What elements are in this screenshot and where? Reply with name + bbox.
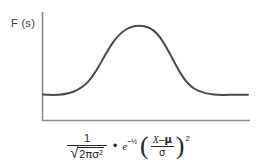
paren-close: ) [176,133,185,159]
y-axis-label: F (s) [11,17,35,30]
fraction-denominator: √ 2πσ2 [67,146,107,160]
radical-content: 2πσ2 [78,147,104,160]
formula-caption: 1 √ 2πσ2 • e −½ ( [0,126,257,166]
figure-canvas: F (s) 1 √ 2πσ2 • e [0,0,257,166]
formula-row: 1 √ 2πσ2 • e −½ ( [67,133,190,160]
radical-sigma: σ [92,149,99,160]
z-numerator: X–μ [151,135,174,146]
radical-sigma-exponent: 2 [99,149,103,156]
normalizing-fraction: 1 √ 2πσ2 [67,133,107,160]
plot-svg [0,0,257,128]
z-score-group: ( X–μ σ ) 2 [140,133,190,159]
paren-open: ( [140,133,149,159]
z-denominator-sigma: σ [157,147,167,158]
exponential-term: e −½ [122,141,137,152]
radical-sign-icon: √ [70,147,78,160]
radical-pi: π [85,149,92,160]
square-root: √ 2πσ2 [70,147,104,160]
z-mu: μ [164,134,171,145]
fraction-numerator: 1 [78,133,96,145]
z-score-fraction: X–μ σ [149,133,176,159]
multiplication-dot: • [113,140,117,152]
gaussian-curve [43,26,248,95]
gaussian-plot: F (s) [0,0,257,128]
exponential-power: −½ [127,138,137,145]
z-outer-exponent: 2 [185,134,189,143]
